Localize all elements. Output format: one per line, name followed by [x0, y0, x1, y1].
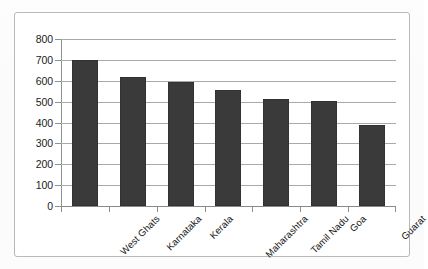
- x-axis-tick: [109, 207, 110, 212]
- y-axis-tick-label: 500: [19, 96, 53, 108]
- y-axis-tick-800: [55, 39, 61, 40]
- y-axis-tick-300: [55, 143, 61, 144]
- y-axis-labels: 8007006005004003002001000: [15, 13, 53, 258]
- bar-slot: [300, 39, 348, 206]
- bar-maharashtra[interactable]: [215, 90, 241, 206]
- x-axis-category-label: Tamil Nadu: [309, 213, 351, 255]
- x-axis-category-label: Karnataka: [164, 213, 203, 252]
- y-axis-tick-0: [55, 206, 61, 207]
- x-axis-tick: [252, 207, 253, 212]
- x-axis-tick: [205, 207, 206, 212]
- bar-slot: [348, 39, 396, 206]
- x-axis-tick: [61, 207, 62, 212]
- x-axis-category-label: Kerala: [207, 213, 235, 241]
- x-axis-tick: [348, 207, 349, 212]
- y-axis-tick-700: [55, 60, 61, 61]
- y-axis-tick-label: 0: [19, 200, 53, 212]
- y-axis-tick-500: [55, 102, 61, 103]
- y-axis-tick-200: [55, 164, 61, 165]
- x-axis-tick: [300, 207, 301, 212]
- y-axis-tick-label: 800: [19, 33, 53, 45]
- bar-goa[interactable]: [311, 101, 337, 206]
- bar-karnataka[interactable]: [120, 77, 146, 206]
- y-axis-tick-600: [55, 81, 61, 82]
- bar-guarat[interactable]: [359, 125, 385, 206]
- y-axis-tick-100: [55, 185, 61, 186]
- x-axis-category-label: West Ghats: [118, 213, 162, 257]
- bar-tamil-nadu[interactable]: [263, 99, 289, 206]
- y-axis-tick-label: 100: [19, 179, 53, 191]
- bar-slot: [205, 39, 253, 206]
- y-axis-tick-label: 200: [19, 158, 53, 170]
- y-axis-tick-400: [55, 123, 61, 124]
- x-axis-category-label: Goa: [348, 213, 369, 234]
- y-axis-tick-label: 600: [19, 75, 53, 87]
- x-axis-category-label: Guarat: [399, 213, 428, 242]
- x-axis-labels: West GhatsKarnatakaKeralaMaharashtraTami…: [61, 213, 403, 269]
- bar-slot: [109, 39, 157, 206]
- x-axis-tick: [157, 207, 158, 212]
- x-axis-category-label: Maharashtra: [263, 213, 310, 260]
- y-axis-tick-label: 300: [19, 137, 53, 149]
- y-axis-tick-label: 400: [19, 117, 53, 129]
- bar-west-ghats[interactable]: [72, 60, 98, 206]
- x-axis-tick: [395, 207, 396, 212]
- bar-slot: [157, 39, 205, 206]
- y-axis-tick-label: 700: [19, 54, 53, 66]
- chart-frame: 8007006005004003002001000 West GhatsKarn…: [14, 12, 410, 257]
- bar-slot: [252, 39, 300, 206]
- plot-area: [61, 39, 396, 206]
- bar-slot: [61, 39, 109, 206]
- bar-kerala[interactable]: [168, 82, 194, 206]
